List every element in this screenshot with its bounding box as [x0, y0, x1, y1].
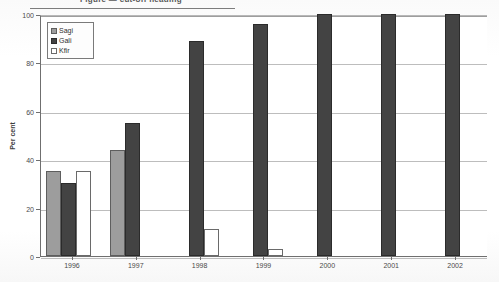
x-tick-mark-2002 [455, 257, 456, 260]
x-axis: 1996199719981999200020012002 [40, 257, 487, 279]
bar-group-1997 [105, 16, 169, 256]
y-axis: Per cent 020406080100 [0, 15, 40, 257]
x-tick-label-2000: 2000 [295, 262, 359, 269]
x-tick-mark-1998 [200, 257, 201, 260]
bar-sagi-1996 [46, 171, 61, 256]
x-tick-group-2000: 2000 [295, 257, 359, 279]
bar-gali-1996 [61, 183, 76, 256]
bar-group-2001 [360, 16, 424, 256]
bar-gali-2002 [445, 14, 460, 256]
x-tick-group-2001: 2001 [359, 257, 423, 279]
x-tick-group-1996: 1996 [40, 257, 104, 279]
legend-item-label: Sagi [59, 27, 73, 35]
bar-sagi-1997 [110, 150, 125, 256]
bar-gali-2001 [381, 14, 396, 256]
title-divider [30, 8, 235, 9]
x-tick-group-2002: 2002 [423, 257, 487, 279]
x-tick-group-1997: 1997 [104, 257, 168, 279]
chart-page: Figure — cut-off heading Per cent 020406… [0, 0, 499, 282]
bar-group-2002 [424, 16, 488, 256]
bar-group-2000 [296, 16, 360, 256]
legend: SagiGaliKfir [47, 22, 94, 59]
y-tick-label-80: 80 [26, 60, 34, 67]
bar-gali-2000 [317, 14, 332, 256]
y-tick-label-0: 0 [30, 254, 34, 261]
x-tick-label-1998: 1998 [168, 262, 232, 269]
plot-area [40, 15, 487, 257]
y-tick-label-60: 60 [26, 108, 34, 115]
bar-kfir-1999 [268, 249, 283, 256]
x-tick-mark-2000 [327, 257, 328, 260]
x-tick-group-1999: 1999 [232, 257, 296, 279]
x-tick-label-2001: 2001 [359, 262, 423, 269]
x-tick-mark-1997 [136, 257, 137, 260]
bar-kfir-1996 [76, 171, 91, 256]
y-tick-label-40: 40 [26, 157, 34, 164]
bar-gali-1997 [125, 123, 140, 256]
bar-group-1999 [233, 16, 297, 256]
bar-gali-1998 [189, 41, 204, 256]
legend-item-gali: Gali [51, 36, 90, 45]
bar-group-1998 [169, 16, 233, 256]
legend-item-kfir: Kfir [51, 46, 90, 55]
y-tick-label-20: 20 [26, 205, 34, 212]
legend-item-label: Kfir [59, 47, 70, 55]
bar-gali-1999 [253, 24, 268, 256]
x-tick-mark-1996 [72, 257, 73, 260]
bar-kfir-1998 [204, 229, 219, 256]
legend-item-label: Gali [59, 37, 71, 45]
y-tick-label-100: 100 [22, 12, 34, 19]
white-swatch-icon [51, 48, 57, 54]
clipped-title-text: Figure — cut-off heading [32, 0, 230, 4]
x-tick-group-1998: 1998 [168, 257, 232, 279]
dark-swatch-icon [51, 38, 57, 44]
gray-swatch-icon [51, 28, 57, 34]
x-tick-label-2002: 2002 [423, 262, 487, 269]
x-tick-mark-1999 [263, 257, 264, 260]
y-axis-title: Per cent [9, 106, 16, 166]
legend-item-sagi: Sagi [51, 26, 90, 35]
x-tick-label-1996: 1996 [40, 262, 104, 269]
x-tick-mark-2001 [391, 257, 392, 260]
x-tick-label-1999: 1999 [232, 262, 296, 269]
x-tick-label-1997: 1997 [104, 262, 168, 269]
